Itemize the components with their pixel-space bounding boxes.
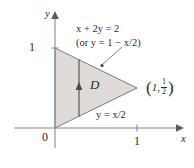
x-axis-tick-label-1: 1 [134,135,140,147]
y-axis-label: y [45,8,50,19]
upper-boundary-equation: x + 2y = 2 (or y = 1 − x/2) [76,22,141,50]
vertex-y-fraction: 1 2 [161,78,167,97]
vertex-fraction-denominator: 2 [162,88,166,96]
upper-boundary-equation-line1: x + 2y = 2 [76,22,141,36]
upper-boundary-leader-dot [101,64,104,67]
upper-boundary-equation-line2: (or y = 1 − x/2) [76,36,141,50]
y-axis-tick-label-1: 1 [29,41,35,53]
x-axis-arrowhead [176,124,184,132]
origin-label: 0 [42,131,48,143]
region-label-d: D [90,78,99,91]
figure-container: y x 1 1 0 D x + 2y = 2 (or y = 1 − x/2) … [0,0,194,168]
vertex-comma: , [157,82,160,93]
lower-boundary-equation: y = x/2 [96,110,126,121]
x-axis-label: x [181,133,186,144]
y-axis-arrowhead [51,11,59,19]
vertex-fraction-numerator: 1 [162,78,166,86]
vertex-close-paren: ) [168,79,174,96]
vertex-point-label: ( 1 , 1 2 ) [146,78,174,97]
